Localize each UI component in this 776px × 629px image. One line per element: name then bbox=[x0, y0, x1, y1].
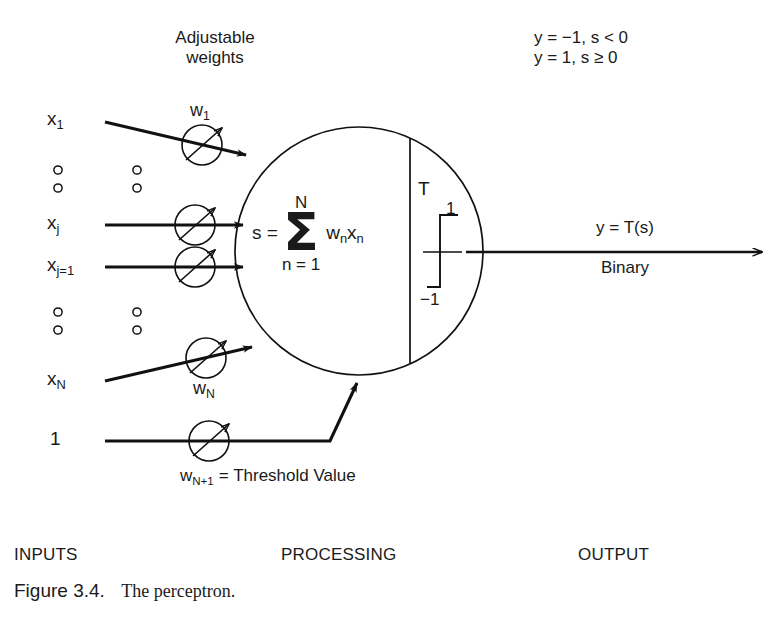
bias-weight-base: w bbox=[180, 466, 192, 485]
summation-lhs: s = bbox=[252, 222, 278, 244]
sigma-icon: Σ bbox=[283, 210, 319, 255]
threshold-high-level-label: 1 bbox=[446, 199, 455, 219]
bias-weight-subscript: N+1 bbox=[192, 475, 214, 487]
summation-expression: s = N Σ n = 1 wnxn bbox=[252, 194, 364, 273]
summation-operator: N Σ n = 1 bbox=[282, 194, 320, 273]
weight-symbol-wj1[interactable] bbox=[175, 247, 215, 287]
input-label-xj1: xj=1 bbox=[47, 254, 74, 276]
input-label-x1-subscript: 1 bbox=[57, 117, 64, 132]
ellipsis-dots-inputs-lower bbox=[54, 308, 62, 334]
summation-term: wnxn bbox=[326, 222, 364, 244]
input-line-x1 bbox=[105, 122, 246, 155]
input-label-xN: xN bbox=[47, 368, 66, 390]
weight-symbol-w1[interactable] bbox=[182, 125, 222, 165]
weight-label-w1: w1 bbox=[190, 100, 210, 121]
threshold-low-level-label: −1 bbox=[420, 290, 439, 310]
input-label-xj: xj bbox=[47, 212, 59, 234]
summation-term-w-sub: n bbox=[340, 231, 347, 246]
adjustable-weights-heading: Adjustable weights bbox=[150, 28, 280, 68]
input-line-xN bbox=[105, 347, 252, 381]
weight-symbol-wN[interactable] bbox=[186, 338, 226, 378]
input-label-xN-base: x bbox=[47, 368, 57, 389]
section-label-processing: PROCESSING bbox=[281, 545, 396, 565]
weight-label-w1-subscript: 1 bbox=[203, 109, 210, 123]
ellipsis-dots-weights-lower bbox=[133, 308, 141, 334]
summation-term-x-sub: n bbox=[357, 231, 364, 246]
input-label-xj-base: x bbox=[47, 212, 57, 233]
weight-symbol-bias[interactable] bbox=[189, 421, 229, 461]
figure-caption-number: Figure 3.4. bbox=[14, 580, 105, 601]
threshold-function-label: T bbox=[418, 178, 430, 200]
ellipsis-dots-inputs-upper bbox=[54, 166, 62, 192]
weight-symbol-wj[interactable] bbox=[175, 205, 215, 245]
section-label-output: OUTPUT bbox=[578, 545, 649, 565]
bias-input-label: 1 bbox=[50, 428, 61, 450]
summation-term-w: w bbox=[326, 222, 340, 243]
input-line-bias bbox=[105, 383, 357, 441]
perceptron-diagram bbox=[0, 0, 776, 629]
summation-lower-limit: n = 1 bbox=[282, 256, 320, 273]
ellipsis-dots-weights-upper bbox=[133, 166, 141, 192]
activation-rule-negative: y = −1, s < 0 bbox=[534, 28, 628, 48]
input-label-x1: x1 bbox=[47, 108, 64, 130]
activation-rule-positive: y = 1, s ≥ 0 bbox=[534, 48, 628, 68]
weight-label-wN-subscript: N bbox=[206, 387, 215, 401]
adjustable-weights-line1: Adjustable bbox=[150, 28, 280, 48]
bias-weight-equation: wN+1= Threshold Value bbox=[180, 466, 356, 486]
weight-label-w1-base: w bbox=[190, 100, 203, 120]
activation-rule: y = −1, s < 0 y = 1, s ≥ 0 bbox=[534, 28, 628, 68]
figure-caption-text: The perceptron. bbox=[121, 581, 235, 601]
figure-caption: Figure 3.4. The perceptron. bbox=[14, 580, 235, 602]
output-equation: y = T(s) bbox=[560, 218, 690, 238]
bias-weight-threshold-text: = Threshold Value bbox=[219, 466, 356, 485]
input-label-x1-base: x bbox=[47, 108, 57, 129]
perceptron-figure: Adjustable weights y = −1, s < 0 y = 1, … bbox=[0, 0, 776, 629]
output-type-label: Binary bbox=[560, 258, 690, 278]
summation-term-x: x bbox=[347, 222, 357, 243]
adjustable-weights-line2: weights bbox=[150, 48, 280, 68]
input-label-xj1-base: x bbox=[47, 254, 57, 275]
weight-label-wN-base: w bbox=[193, 378, 206, 398]
input-label-xj-subscript: j bbox=[57, 221, 60, 236]
input-label-xN-subscript: N bbox=[57, 377, 66, 392]
weight-label-wN: wN bbox=[193, 378, 215, 399]
section-label-inputs: INPUTS bbox=[14, 545, 78, 565]
input-label-xj1-subscript: j=1 bbox=[57, 263, 75, 278]
